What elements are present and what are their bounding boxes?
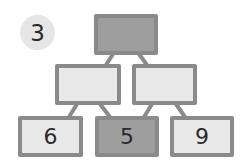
bottom-left-box: 6	[18, 116, 83, 157]
top-box[interactable]	[94, 14, 158, 55]
middle-left-box[interactable]	[55, 64, 121, 105]
problem-number-badge: 3	[20, 15, 55, 50]
middle-right-box[interactable]	[132, 64, 197, 105]
bottom-middle-box: 5	[95, 116, 159, 157]
bottom-right-box: 9	[170, 116, 234, 157]
